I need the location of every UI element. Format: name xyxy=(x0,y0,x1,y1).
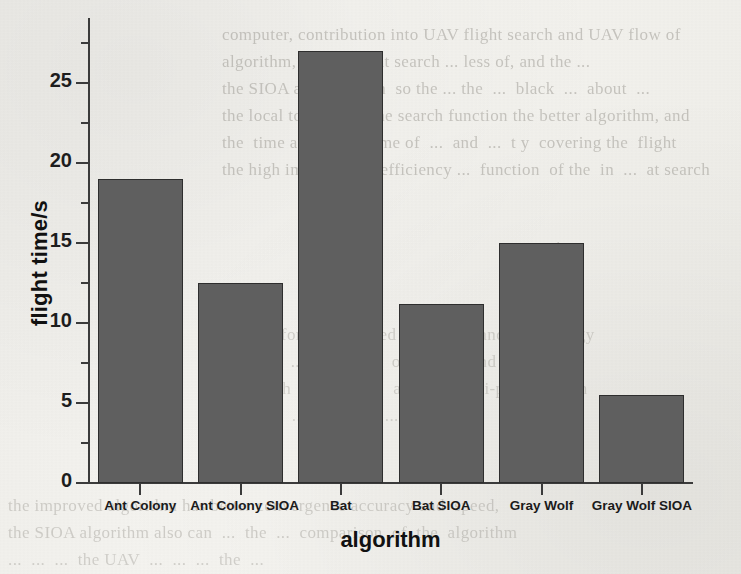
y-tick-major xyxy=(76,162,89,164)
scanned-page: computer, contribution into UAV flight s… xyxy=(0,0,741,574)
x-tick-label: Bat SIOA xyxy=(391,498,491,513)
y-tick-minor xyxy=(81,282,89,284)
y-tick-label: 25 xyxy=(38,69,72,92)
bar xyxy=(198,283,283,483)
y-tick-major xyxy=(76,82,89,84)
x-tick-label: Gray Wolf SIOA xyxy=(592,498,692,513)
x-tick xyxy=(340,484,342,495)
x-tick-label: Bat xyxy=(291,498,391,513)
bar xyxy=(98,179,183,483)
x-tick xyxy=(541,484,543,495)
x-axis-title: algorithm xyxy=(88,527,693,553)
y-tick-minor xyxy=(81,122,89,124)
y-axis-line xyxy=(88,18,90,484)
x-tick xyxy=(240,484,242,495)
y-tick-minor xyxy=(81,442,89,444)
x-tick xyxy=(641,484,643,495)
x-tick-label: Ant Colony SIOA xyxy=(190,498,290,513)
bar xyxy=(599,395,684,483)
y-tick-minor xyxy=(81,362,89,364)
y-tick-label: 5 xyxy=(38,389,72,412)
y-tick-minor xyxy=(81,202,89,204)
x-tick-label: Ant Colony xyxy=(90,498,190,513)
x-tick-label: Gray Wolf xyxy=(491,498,591,513)
bar xyxy=(298,51,383,483)
x-tick xyxy=(139,484,141,495)
bar-chart: 0510152025 Ant ColonyAnt Colony SIOABatB… xyxy=(0,0,741,574)
y-tick-major xyxy=(76,322,89,324)
y-tick-major xyxy=(76,402,89,404)
y-tick-major xyxy=(76,482,89,484)
x-tick xyxy=(440,484,442,495)
y-tick-label: 0 xyxy=(38,469,72,492)
bar xyxy=(399,304,484,483)
y-tick-minor xyxy=(81,42,89,44)
y-axis-title: flight time/s xyxy=(27,143,53,383)
y-tick-major xyxy=(76,242,89,244)
bar xyxy=(499,243,584,483)
